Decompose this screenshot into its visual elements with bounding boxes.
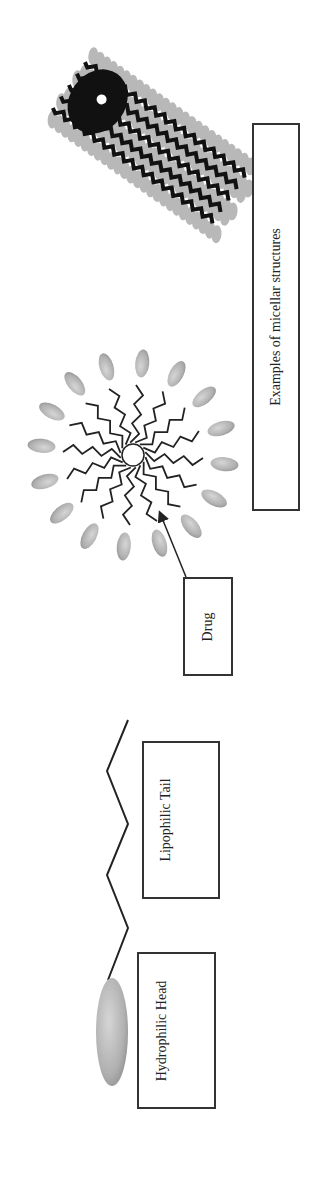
micelle-head xyxy=(29,471,60,492)
spherical-micelle xyxy=(27,349,239,577)
micelle-tail xyxy=(143,431,199,453)
micelle-head xyxy=(96,351,117,382)
micelle-tail xyxy=(145,452,203,465)
cylindrical-micelle xyxy=(37,43,273,248)
micelle-head xyxy=(198,486,229,512)
lipophilic-tail-label: Lipophilic Tail xyxy=(158,778,174,861)
micelle-head xyxy=(61,369,90,400)
hydrophilic-head-label: Hydrophilic Head xyxy=(154,980,170,1081)
micelle-head xyxy=(149,528,170,559)
drug-core xyxy=(122,444,144,466)
micelle-head xyxy=(47,499,78,528)
micelle-head xyxy=(36,399,67,425)
examples-label: Examples of micellar structures xyxy=(268,228,284,406)
micelle-head xyxy=(27,437,56,454)
micelle-head xyxy=(206,418,237,439)
micelle-tail xyxy=(123,467,136,525)
micelle-tail xyxy=(67,457,123,479)
micelle-head xyxy=(189,383,220,412)
surfactant-monomer xyxy=(96,720,128,1086)
examples-of-micellar-structures-box: Examples of micellar structures xyxy=(252,123,300,511)
micelle-tail xyxy=(63,445,121,458)
micelle-head xyxy=(134,349,151,378)
micelle-head xyxy=(77,520,103,551)
lipophilic-tail-box: Lipophilic Tail xyxy=(142,741,220,899)
micelle-head xyxy=(115,532,132,561)
hydrophilic-head-box: Hydrophilic Head xyxy=(137,952,216,1109)
hydrophilic-head-ellipse xyxy=(96,978,128,1086)
micelle-tail xyxy=(109,389,131,445)
drug-box: Drug xyxy=(183,577,233,676)
drug-label: Drug xyxy=(200,612,216,641)
micelle-tail xyxy=(135,465,157,521)
lipophilic-tail-zigzag xyxy=(107,720,128,980)
micelle-head xyxy=(164,358,190,389)
micelle-head xyxy=(210,456,239,473)
micelle-head xyxy=(177,511,206,542)
micelle-tail xyxy=(130,385,143,443)
